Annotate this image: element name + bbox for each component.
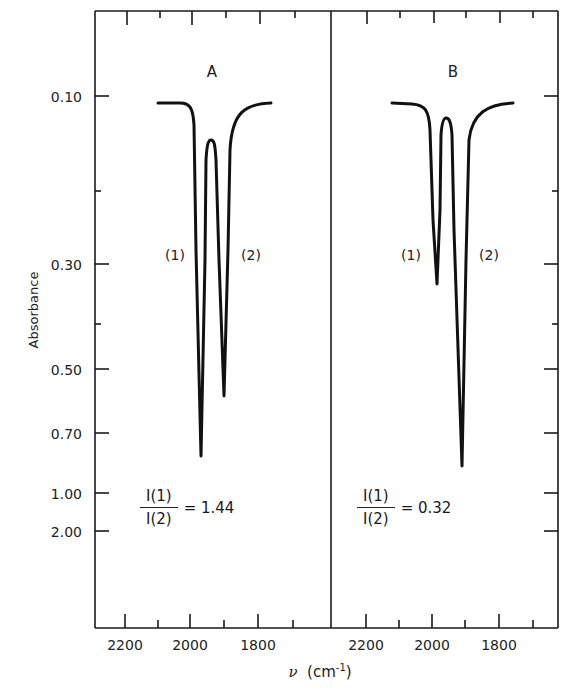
x-ticks-bottom-a bbox=[125, 614, 293, 628]
ratio-denominator: I(2) bbox=[357, 508, 395, 528]
y-tick-label: 0.10 bbox=[22, 89, 82, 105]
ratio-fraction: I(1) I(2) bbox=[140, 487, 178, 528]
x-ticks-bottom-b bbox=[366, 614, 533, 628]
peak-label-b1: (1) bbox=[401, 247, 421, 263]
x-ticks-top-a bbox=[127, 11, 295, 25]
ratio-annotation-a: I(1) I(2) = 1.44 bbox=[140, 487, 234, 528]
x-axis-exponent: -1 bbox=[336, 662, 346, 673]
x-tick-label: 1800 bbox=[481, 637, 517, 653]
y-ticks-left bbox=[95, 96, 109, 531]
panel-title-a: A bbox=[207, 63, 217, 81]
ratio-annotation-b: I(1) I(2) = 0.32 bbox=[357, 487, 451, 528]
figure-canvas bbox=[0, 0, 568, 697]
y-tick-label: 0.50 bbox=[22, 362, 82, 378]
panel-title-b: B bbox=[448, 63, 458, 81]
spectrum-curve-b bbox=[392, 103, 513, 466]
ratio-numerator: I(1) bbox=[140, 487, 178, 508]
x-axis-close: ) bbox=[346, 663, 352, 681]
peak-label-a1: (1) bbox=[165, 247, 185, 263]
ratio-denominator: I(2) bbox=[140, 508, 178, 528]
x-tick-label: 1800 bbox=[240, 637, 276, 653]
x-tick-label: 2200 bbox=[107, 637, 143, 653]
ratio-value: = 1.44 bbox=[184, 499, 235, 517]
ratio-numerator: I(1) bbox=[357, 487, 395, 508]
ratio-value: = 0.32 bbox=[401, 499, 452, 517]
y-ticks-right bbox=[544, 96, 558, 531]
x-axis-symbol: ν bbox=[288, 663, 297, 681]
peak-label-a2: (2) bbox=[241, 247, 261, 263]
peak-label-b2: (2) bbox=[479, 247, 499, 263]
x-ticks-top-b bbox=[367, 11, 533, 24]
x-axis-label: ν (cm-1) bbox=[288, 662, 351, 681]
ratio-fraction: I(1) I(2) bbox=[357, 487, 395, 528]
x-tick-label: 2000 bbox=[414, 637, 450, 653]
x-tick-label: 2000 bbox=[172, 637, 208, 653]
x-tick-label: 2200 bbox=[348, 637, 384, 653]
x-axis-unit: (cm bbox=[307, 663, 336, 681]
y-tick-label: 2.00 bbox=[22, 524, 82, 540]
y-tick-label: 0.70 bbox=[22, 426, 82, 442]
y-axis-label: Absorbance bbox=[26, 272, 41, 349]
spectrum-curve-a bbox=[158, 103, 271, 456]
y-tick-label: 1.00 bbox=[22, 486, 82, 502]
